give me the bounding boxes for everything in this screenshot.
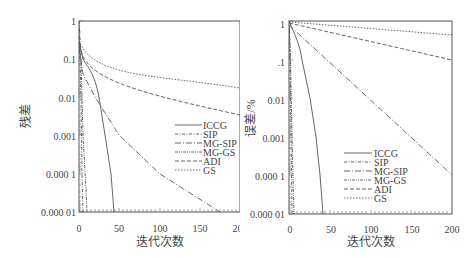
y-tick-label: 0.01 — [59, 93, 77, 104]
x-axis: 0 50 100 150 200 — [288, 224, 460, 235]
x-tick-label: 200 — [233, 223, 241, 234]
x-axis-label: 迭代次数 — [136, 234, 184, 249]
y-tick-label: 0.01 — [268, 95, 286, 106]
x-tick-label: 100 — [153, 223, 168, 234]
series-mg-gs — [289, 21, 294, 214]
error-chart: 1 .1 0.01 0.001 0.000 1 0.000 01 0 50 10… — [240, 0, 475, 258]
y-tick-label: 0.000 1 — [46, 169, 76, 180]
plot-frame — [79, 21, 240, 212]
legend-item-gs: GS — [344, 193, 387, 204]
series-mg-sip — [289, 25, 452, 175]
series-mg-sip — [79, 48, 220, 212]
y-tick-label: 0.001 — [54, 131, 77, 142]
y-tick-label: 0.000 01 — [250, 209, 285, 220]
y-axis: 1 0.1 0.01 0.001 0.000 1 0.000 01 — [41, 16, 76, 218]
y-tick-label: 0.000 1 — [255, 171, 285, 182]
series-adi — [79, 45, 240, 115]
x-tick-label: 50 — [114, 223, 124, 234]
series-iccg — [289, 21, 323, 214]
y-tick-label: .1 — [278, 57, 286, 68]
y-axis-label: 残差 — [19, 104, 33, 128]
x-tick-label: 150 — [193, 223, 208, 234]
svg-text:GS: GS — [203, 165, 216, 176]
series-mg-gs — [79, 21, 87, 212]
legend-item-iccg: ICCG — [175, 120, 227, 131]
x-minor-ticks — [83, 208, 236, 212]
x-tick-label: 200 — [445, 224, 460, 235]
x-axis-label: 迭代次数 — [347, 234, 395, 249]
series-gs — [79, 41, 240, 88]
x-tick-label: 0 — [77, 223, 82, 234]
y-tick-label: 0.000 01 — [41, 207, 76, 218]
y-tick-label: 1 — [71, 16, 76, 27]
x-tick-label: 50 — [326, 224, 336, 235]
legend: ICCG SIP MG-SIP MG-GS ADI GS — [344, 148, 408, 204]
y-tick-label: 1 — [280, 19, 285, 30]
legend-item-gs: GS — [175, 165, 216, 176]
legend-item-iccg: ICCG — [344, 148, 398, 159]
y-tick-label: 0.1 — [64, 54, 77, 65]
legend: ICCG SIP MG-SIP MG-GS ADI GS — [175, 120, 237, 176]
y-tick-label: 0.001 — [263, 133, 286, 144]
x-axis: 0 50 100 150 200 — [77, 223, 241, 234]
x-tick-label: 0 — [288, 224, 293, 235]
x-tick-label: 100 — [364, 224, 379, 235]
x-tick-label: 150 — [405, 224, 420, 235]
y-axis-label: 误差/% — [244, 99, 258, 136]
residual-chart: 1 0.1 0.01 0.001 0.000 1 0.000 01 0 50 1… — [0, 0, 240, 258]
series-iccg — [79, 41, 114, 212]
x-minor-ticks — [293, 210, 447, 214]
svg-text:GS: GS — [374, 193, 387, 204]
